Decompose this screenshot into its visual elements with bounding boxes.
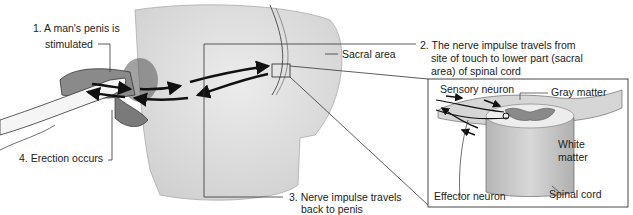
spinal-cord-label: Spinal cord	[549, 188, 602, 201]
white-matter-label-line1: White	[558, 138, 585, 151]
genital-and-hand-illustration	[0, 69, 148, 150]
step2-label-line3: area) of spinal cord	[431, 65, 521, 78]
white-matter-label-line2: matter	[558, 151, 588, 164]
sacral-area-label: Sacral area	[342, 48, 396, 61]
erection-reflex-diagram: 1. A man's penis is stimulated 2. The ne…	[0, 0, 633, 215]
step2-label-line2: site of touch to lower part (sacral	[431, 52, 583, 65]
effector-neuron-label: Effector neuron	[434, 190, 506, 203]
step1-label-line1: 1. A man's penis is	[33, 22, 120, 35]
step3-label-line1: 3. Nerve impulse travels	[289, 191, 402, 204]
step1-label-line2: stimulated	[45, 38, 93, 51]
sensory-neuron-label: Sensory neuron	[440, 83, 514, 96]
step2-label-line1: 2. The nerve impulse travels from	[420, 39, 576, 52]
body-silhouette	[122, 5, 342, 200]
step3-label-line2: back to penis	[301, 203, 363, 215]
gray-matter-label: Gray matter	[551, 86, 606, 99]
step4-label: 4. Erection occurs	[19, 152, 103, 165]
